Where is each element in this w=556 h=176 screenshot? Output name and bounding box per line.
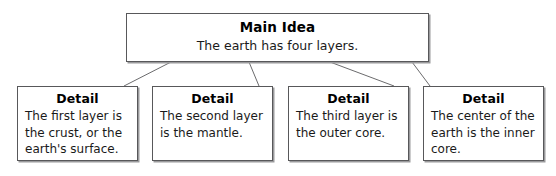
main-idea-text: The earth has four layers. <box>127 35 428 54</box>
detail-box-1-text: The first layer is the crust, or the ear… <box>23 107 132 158</box>
detail-box-4: Detail The center of the earth is the in… <box>423 86 544 161</box>
diagram-canvas: Main Idea The earth has four layers. Det… <box>0 0 556 176</box>
detail-box-4-title: Detail <box>429 91 538 107</box>
detail-box-2-text: The second layer is the mantle. <box>158 107 267 141</box>
main-idea-title: Main Idea <box>127 19 428 35</box>
main-idea-box: Main Idea The earth has four layers. <box>126 13 429 62</box>
detail-box-2: Detail The second layer is the mantle. <box>152 86 273 161</box>
detail-box-1: Detail The first layer is the crust, or … <box>17 86 138 161</box>
detail-box-4-text: The center of the earth is the inner cor… <box>429 107 538 158</box>
detail-box-2-title: Detail <box>158 91 267 107</box>
detail-box-3: Detail The third layer is the outer core… <box>288 86 409 161</box>
detail-box-3-text: The third layer is the outer core. <box>294 107 403 141</box>
detail-box-1-title: Detail <box>23 91 132 107</box>
detail-box-3-title: Detail <box>294 91 403 107</box>
connector-line-1 <box>124 62 171 86</box>
connector-line-4 <box>412 62 430 86</box>
connector-line-2 <box>249 62 259 86</box>
connector-line-3 <box>330 62 394 86</box>
